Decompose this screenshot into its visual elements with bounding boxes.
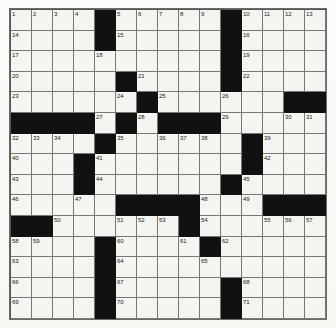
grid-letter-cell[interactable] bbox=[305, 257, 326, 278]
grid-letter-cell[interactable]: 42 bbox=[263, 154, 284, 175]
grid-letter-cell[interactable]: 27 bbox=[95, 113, 116, 134]
grid-letter-cell[interactable] bbox=[116, 175, 137, 196]
grid-letter-cell[interactable]: 48 bbox=[200, 195, 221, 216]
grid-letter-cell[interactable] bbox=[305, 51, 326, 72]
grid-letter-cell[interactable] bbox=[179, 278, 200, 299]
grid-letter-cell[interactable] bbox=[284, 298, 305, 319]
grid-letter-cell[interactable]: 9 bbox=[200, 10, 221, 31]
grid-letter-cell[interactable]: 41 bbox=[95, 154, 116, 175]
grid-letter-cell[interactable] bbox=[200, 278, 221, 299]
grid-letter-cell[interactable] bbox=[137, 298, 158, 319]
grid-letter-cell[interactable] bbox=[95, 216, 116, 237]
grid-letter-cell[interactable]: 34 bbox=[53, 134, 74, 155]
grid-letter-cell[interactable] bbox=[53, 278, 74, 299]
grid-letter-cell[interactable] bbox=[263, 175, 284, 196]
grid-letter-cell[interactable] bbox=[221, 134, 242, 155]
grid-letter-cell[interactable] bbox=[74, 216, 95, 237]
grid-letter-cell[interactable] bbox=[179, 92, 200, 113]
grid-letter-cell[interactable]: 53 bbox=[158, 216, 179, 237]
grid-letter-cell[interactable] bbox=[53, 257, 74, 278]
grid-letter-cell[interactable] bbox=[179, 257, 200, 278]
grid-letter-cell[interactable] bbox=[200, 72, 221, 93]
grid-letter-cell[interactable]: 3 bbox=[53, 10, 74, 31]
grid-letter-cell[interactable] bbox=[137, 175, 158, 196]
grid-letter-cell[interactable]: 24 bbox=[116, 92, 137, 113]
grid-letter-cell[interactable]: 60 bbox=[116, 237, 137, 258]
grid-letter-cell[interactable] bbox=[242, 237, 263, 258]
grid-letter-cell[interactable]: 5 bbox=[116, 10, 137, 31]
grid-letter-cell[interactable] bbox=[179, 72, 200, 93]
grid-letter-cell[interactable] bbox=[305, 72, 326, 93]
grid-letter-cell[interactable] bbox=[305, 31, 326, 52]
grid-letter-cell[interactable] bbox=[221, 216, 242, 237]
grid-letter-cell[interactable] bbox=[53, 72, 74, 93]
grid-letter-cell[interactable]: 37 bbox=[179, 134, 200, 155]
grid-letter-cell[interactable]: 38 bbox=[200, 134, 221, 155]
grid-letter-cell[interactable]: 63 bbox=[11, 257, 32, 278]
grid-letter-cell[interactable] bbox=[284, 134, 305, 155]
grid-letter-cell[interactable] bbox=[32, 298, 53, 319]
grid-letter-cell[interactable] bbox=[32, 278, 53, 299]
grid-letter-cell[interactable]: 30 bbox=[284, 113, 305, 134]
grid-letter-cell[interactable]: 29 bbox=[221, 113, 242, 134]
grid-letter-cell[interactable]: 40 bbox=[11, 154, 32, 175]
grid-letter-cell[interactable] bbox=[53, 31, 74, 52]
grid-letter-cell[interactable]: 17 bbox=[11, 51, 32, 72]
grid-letter-cell[interactable]: 33 bbox=[32, 134, 53, 155]
grid-letter-cell[interactable] bbox=[221, 154, 242, 175]
grid-letter-cell[interactable] bbox=[53, 195, 74, 216]
grid-letter-cell[interactable]: 49 bbox=[242, 195, 263, 216]
grid-letter-cell[interactable]: 21 bbox=[137, 72, 158, 93]
grid-letter-cell[interactable] bbox=[284, 175, 305, 196]
grid-letter-cell[interactable]: 44 bbox=[95, 175, 116, 196]
grid-letter-cell[interactable] bbox=[263, 31, 284, 52]
grid-letter-cell[interactable] bbox=[263, 72, 284, 93]
grid-letter-cell[interactable] bbox=[53, 175, 74, 196]
grid-letter-cell[interactable] bbox=[179, 298, 200, 319]
grid-letter-cell[interactable] bbox=[32, 92, 53, 113]
grid-letter-cell[interactable] bbox=[200, 92, 221, 113]
grid-letter-cell[interactable] bbox=[242, 92, 263, 113]
grid-letter-cell[interactable]: 7 bbox=[158, 10, 179, 31]
grid-letter-cell[interactable]: 52 bbox=[137, 216, 158, 237]
grid-letter-cell[interactable]: 25 bbox=[158, 92, 179, 113]
grid-letter-cell[interactable]: 28 bbox=[137, 113, 158, 134]
grid-letter-cell[interactable] bbox=[74, 31, 95, 52]
grid-letter-cell[interactable]: 15 bbox=[116, 31, 137, 52]
grid-letter-cell[interactable] bbox=[263, 278, 284, 299]
grid-letter-cell[interactable]: 68 bbox=[242, 278, 263, 299]
grid-letter-cell[interactable] bbox=[263, 113, 284, 134]
grid-letter-cell[interactable]: 62 bbox=[221, 237, 242, 258]
grid-letter-cell[interactable] bbox=[263, 298, 284, 319]
grid-letter-cell[interactable]: 22 bbox=[242, 72, 263, 93]
grid-letter-cell[interactable]: 26 bbox=[221, 92, 242, 113]
grid-letter-cell[interactable] bbox=[95, 72, 116, 93]
grid-letter-cell[interactable] bbox=[74, 298, 95, 319]
grid-letter-cell[interactable]: 47 bbox=[74, 195, 95, 216]
grid-letter-cell[interactable]: 23 bbox=[11, 92, 32, 113]
grid-letter-cell[interactable]: 45 bbox=[242, 175, 263, 196]
grid-letter-cell[interactable] bbox=[74, 134, 95, 155]
grid-letter-cell[interactable]: 56 bbox=[284, 216, 305, 237]
grid-letter-cell[interactable]: 32 bbox=[11, 134, 32, 155]
grid-letter-cell[interactable]: 19 bbox=[242, 51, 263, 72]
grid-letter-cell[interactable]: 50 bbox=[53, 216, 74, 237]
grid-letter-cell[interactable] bbox=[158, 237, 179, 258]
grid-letter-cell[interactable] bbox=[158, 257, 179, 278]
grid-letter-cell[interactable]: 54 bbox=[200, 216, 221, 237]
grid-letter-cell[interactable] bbox=[53, 237, 74, 258]
grid-letter-cell[interactable] bbox=[74, 278, 95, 299]
grid-letter-cell[interactable]: 71 bbox=[242, 298, 263, 319]
grid-letter-cell[interactable] bbox=[32, 175, 53, 196]
grid-letter-cell[interactable] bbox=[263, 51, 284, 72]
grid-letter-cell[interactable] bbox=[305, 154, 326, 175]
grid-letter-cell[interactable] bbox=[305, 134, 326, 155]
grid-letter-cell[interactable]: 11 bbox=[263, 10, 284, 31]
grid-letter-cell[interactable]: 66 bbox=[11, 278, 32, 299]
grid-letter-cell[interactable] bbox=[284, 51, 305, 72]
grid-letter-cell[interactable] bbox=[221, 195, 242, 216]
grid-letter-cell[interactable] bbox=[116, 154, 137, 175]
grid-letter-cell[interactable] bbox=[53, 154, 74, 175]
grid-letter-cell[interactable]: 39 bbox=[263, 134, 284, 155]
crossword-grid[interactable]: 1234567891011121314151617181920212223242… bbox=[10, 9, 326, 319]
